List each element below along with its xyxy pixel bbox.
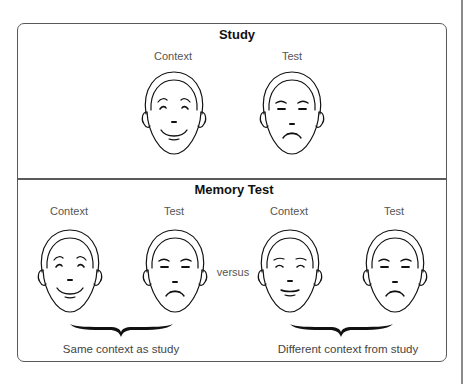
memtest-diff-test-label: Test xyxy=(384,205,404,217)
page-edge-line xyxy=(461,0,463,384)
memtest-diff-test-face-frowning-icon xyxy=(359,226,431,318)
memtest-same-context-face-smiling-icon xyxy=(34,226,106,318)
memory-test-title: Memory Test xyxy=(194,182,273,197)
right-group-brace-icon xyxy=(289,322,394,338)
left-group-brace-icon xyxy=(69,322,174,338)
same-context-caption: Same context as study xyxy=(63,343,179,355)
memtest-diff-context-face-neutral-icon xyxy=(254,226,326,318)
memtest-diff-context-label: Context xyxy=(270,205,308,217)
memtest-same-test-face-frowning-icon xyxy=(139,226,211,318)
memtest-same-context-label: Context xyxy=(50,205,88,217)
section-divider xyxy=(17,178,447,180)
different-context-caption: Different context from study xyxy=(278,343,418,355)
study-context-face-smiling-icon xyxy=(138,68,210,160)
study-test-face-frowning-icon xyxy=(256,68,328,160)
versus-label: versus xyxy=(217,266,249,278)
memtest-same-test-label: Test xyxy=(164,205,184,217)
study-context-label: Context xyxy=(154,50,192,62)
study-test-label: Test xyxy=(282,50,302,62)
study-title: Study xyxy=(219,27,255,42)
